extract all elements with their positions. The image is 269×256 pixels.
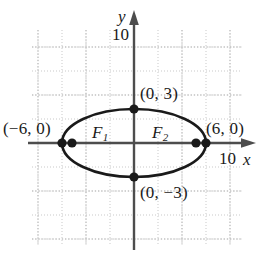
focus-2-subscript: 2 <box>163 131 169 143</box>
vertex-left-label: (−6, 0) <box>3 120 51 137</box>
y-axis <box>129 10 139 250</box>
point-vertex-right <box>201 138 210 147</box>
vertex-bottom-label: (0, −3) <box>140 184 188 201</box>
focus-1-label: F1 <box>92 124 108 143</box>
ellipse-graph-figure: y x 10 10 (0, 3) (0, −3) (−6, 0) (6, 0) … <box>0 0 269 256</box>
vertex-right-label: (6, 0) <box>206 120 244 137</box>
focus-1-letter: F <box>92 123 102 142</box>
x-axis-tick-label-10: 10 <box>219 150 236 167</box>
focus-1-subscript: 1 <box>103 131 109 143</box>
y-axis-label: y <box>118 8 126 25</box>
point-vertex-top <box>129 104 138 113</box>
focus-2-letter: F <box>152 123 162 142</box>
y-axis-tick-label-10: 10 <box>112 26 129 43</box>
point-vertex-bottom <box>129 172 138 181</box>
point-focus-1 <box>67 138 76 147</box>
focus-2-label: F2 <box>152 124 168 143</box>
point-focus-2 <box>191 138 200 147</box>
point-vertex-left <box>57 138 66 147</box>
x-axis-label: x <box>243 151 251 168</box>
vertex-top-label: (0, 3) <box>140 85 178 102</box>
